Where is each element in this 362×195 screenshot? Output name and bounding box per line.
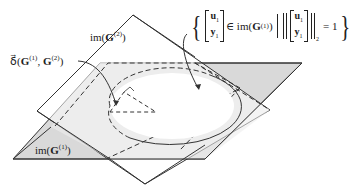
gap-suffix: )	[60, 55, 64, 67]
vec-top-sub: 1	[216, 17, 219, 23]
label-sup: (1)	[59, 143, 67, 151]
member-of: ∈ im(	[226, 20, 252, 33]
norm-right-bar	[311, 13, 312, 39]
gap-prefix: δ⃗(	[10, 55, 21, 67]
open-brace: {	[191, 11, 201, 41]
unit-sphere-set-expression: { u1 y1 ∈ im(G(1)) u1 y1 2 = 1 }	[189, 6, 352, 46]
vec-bottom-sub: 1	[300, 33, 303, 39]
equals-one: = 1	[323, 20, 337, 32]
member-symbol: G	[252, 20, 261, 32]
label-gap-metric: δ⃗(G(1), G(2))	[10, 55, 63, 67]
norm-subscript: 2	[316, 36, 319, 42]
label-im-g2: im(G(2))	[90, 31, 126, 43]
member-sup: (1)	[261, 22, 269, 30]
vec-top-sub: 1	[300, 17, 303, 23]
such-that-bar	[277, 14, 278, 38]
label-symbol: G	[50, 144, 59, 156]
norm-left-bar	[283, 13, 284, 39]
label-suffix: )	[122, 31, 126, 43]
member-close: )	[269, 20, 273, 32]
gap-g1: G	[21, 55, 30, 67]
vec-bottom-sub: 1	[215, 33, 218, 39]
gap-g2-sup: (2)	[51, 54, 59, 62]
label-prefix: im(	[35, 144, 50, 156]
unit-ellipse	[110, 73, 234, 139]
vector-u1-y1: u1 y1	[205, 10, 224, 42]
label-im-g1: im(G(1))	[35, 144, 71, 156]
vector-u1-y1-norm: u1 y1	[290, 10, 309, 42]
label-symbol: G	[105, 31, 114, 43]
label-sup: (2)	[114, 30, 122, 38]
close-brace: }	[340, 11, 350, 41]
norm-right-bar	[314, 13, 315, 39]
label-suffix: )	[67, 144, 71, 156]
norm-left-bar	[286, 13, 287, 39]
label-prefix: im(	[90, 31, 105, 43]
